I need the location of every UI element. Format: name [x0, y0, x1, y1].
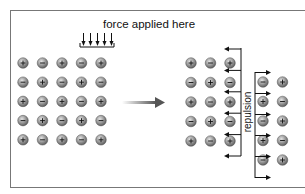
cation-icon — [186, 136, 197, 147]
cation-icon — [225, 58, 236, 69]
cation-icon — [76, 77, 87, 88]
cation-icon — [186, 58, 197, 69]
cation-icon — [76, 115, 87, 126]
anion-icon — [76, 96, 87, 107]
cation-icon — [96, 96, 107, 107]
repulsion-label: repulsion — [242, 92, 253, 133]
anion-icon — [205, 97, 216, 108]
anion-icon — [18, 77, 29, 88]
cation-icon — [96, 135, 107, 146]
anion-icon — [37, 96, 48, 107]
force-arrows-icon — [80, 33, 114, 47]
cation-icon — [37, 115, 48, 126]
cation-icon — [186, 97, 197, 108]
cation-icon — [37, 77, 48, 88]
cation-icon — [18, 96, 29, 107]
anion-icon — [37, 58, 48, 69]
anion-icon — [225, 116, 236, 127]
cation-icon — [277, 155, 288, 166]
anion-icon — [225, 77, 236, 88]
anion-icon — [277, 96, 288, 107]
anion-icon — [205, 58, 216, 69]
cation-icon — [225, 136, 236, 147]
anion-icon — [205, 136, 216, 147]
anion-icon — [96, 115, 107, 126]
cation-icon — [57, 135, 68, 146]
cation-icon — [96, 58, 107, 69]
anion-icon — [37, 135, 48, 146]
anion-icon — [258, 116, 269, 127]
anion-icon — [57, 77, 68, 88]
anion-icon — [76, 135, 87, 146]
force-label: force applied here — [103, 18, 195, 30]
anion-icon — [76, 58, 87, 69]
ionic-crystal-diagram: force applied here repulsion — [0, 0, 305, 194]
anion-icon — [57, 115, 68, 126]
right-ion-lattice-shifted-right — [258, 77, 288, 166]
anion-icon — [18, 115, 29, 126]
cation-icon — [205, 116, 216, 127]
anion-icon — [258, 77, 269, 88]
cation-icon — [18, 58, 29, 69]
cation-icon — [277, 77, 288, 88]
cation-icon — [277, 116, 288, 127]
cation-icon — [18, 135, 29, 146]
anion-icon — [186, 77, 197, 88]
cation-icon — [57, 96, 68, 107]
cation-icon — [57, 58, 68, 69]
transition-arrow-icon — [122, 97, 165, 108]
left-ion-lattice — [18, 58, 107, 145]
cation-icon — [225, 97, 236, 108]
cation-icon — [258, 96, 269, 107]
anion-icon — [277, 135, 288, 146]
cation-icon — [205, 77, 216, 88]
anion-icon — [186, 116, 197, 127]
anion-icon — [96, 77, 107, 88]
